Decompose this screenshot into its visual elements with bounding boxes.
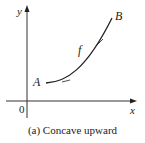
- function-f-label: f: [78, 44, 81, 56]
- y-axis-arrow-icon: [25, 5, 30, 12]
- figure-caption: (a) Concave upward: [0, 124, 145, 136]
- concavity-figure: y x 0 A B f (a) Concave upward: [0, 0, 145, 143]
- origin-label: 0: [19, 104, 25, 115]
- point-b-label: B: [115, 10, 122, 22]
- y-axis-label: y: [17, 6, 22, 17]
- point-a-label: A: [33, 76, 40, 88]
- graph-canvas: [0, 0, 145, 143]
- tangent-mark: [62, 80, 70, 82]
- x-axis-arrow-icon: [130, 99, 137, 104]
- x-axis-label: x: [130, 105, 135, 116]
